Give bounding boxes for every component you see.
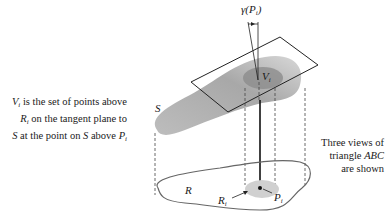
right-caption: Three views of triangle ABC are shown	[318, 136, 384, 175]
label-gamma: γ(Pi)	[241, 3, 261, 17]
label-vi: Vi	[262, 70, 271, 84]
left-caption: Vi is the set of points above Ri on the …	[2, 95, 127, 146]
label-ri: Ri	[218, 194, 227, 208]
region-r	[157, 161, 310, 210]
label-s: S	[155, 102, 161, 114]
label-pi: Pi	[274, 191, 283, 205]
label-r: R	[185, 184, 192, 196]
surface-s	[155, 56, 301, 135]
